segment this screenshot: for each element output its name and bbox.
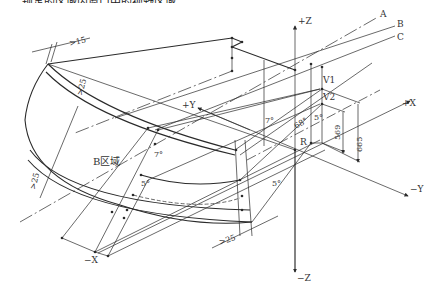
label-minus-z: −Z [297,273,311,283]
angle-5-left: 5° [141,179,150,188]
label-minus-y: −Y [410,184,425,194]
label-line-b: B [397,19,404,29]
angle-5-right: 5° [272,179,281,188]
angle-7-upper: 7° [265,116,274,125]
label-line-a: A [379,9,387,19]
label-plus-z: +Z [298,16,312,26]
dim-569: 569 [333,125,342,140]
dim-665: 665 [355,137,364,152]
label-plus-y: +Y [182,100,197,110]
dim-top-edge: >15 [68,35,87,48]
line-c [155,36,395,130]
dim-left-edge: >25 [28,172,41,191]
angle-5-v2: 5° [314,113,323,122]
angle-7-lower: 7° [154,150,163,159]
windshield-vision-zone-diagram: +Z −Z +X −X +Y −Y A B C V1 V2 R B区域 >15 … [0,0,432,283]
label-zone-b: B区域 [93,155,120,167]
line-b [115,26,395,118]
label-r: R [300,137,307,147]
label-v1: V1 [322,75,335,85]
control-points [61,37,324,258]
dim-bottom-right: >25 [218,233,237,247]
label-plus-x: +X [402,98,417,108]
label-line-c: C [397,32,404,42]
dim-upper-band: >25 [75,78,88,97]
label-minus-x: −X [84,255,99,265]
label-v2: V2 [322,92,335,102]
